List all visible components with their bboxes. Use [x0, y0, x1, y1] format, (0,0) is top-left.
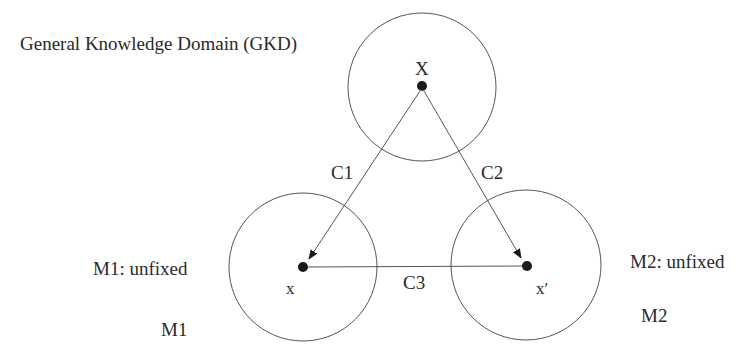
node-label-x-prime: x′ — [536, 280, 548, 297]
m2-status-label: M2: unfixed — [630, 252, 724, 271]
diagram-title: General Knowledge Domain (GKD) — [20, 34, 297, 53]
edge-c1 — [309, 91, 420, 259]
node-dot-X — [417, 81, 427, 91]
edge-label-c2: C2 — [481, 163, 503, 182]
edge-label-c3: C3 — [403, 273, 425, 292]
m1-status-label: M1: unfixed — [93, 259, 187, 278]
m1-label: M1 — [161, 320, 187, 339]
node-label-x: x — [286, 280, 295, 297]
node-dot-x — [298, 262, 308, 272]
m2-label: M2 — [641, 306, 667, 325]
edge-c3 — [303, 266, 527, 267]
edge-label-c1: C1 — [331, 163, 353, 182]
diagram-canvas — [0, 0, 749, 361]
node-label-X: X — [415, 59, 429, 78]
node-dot-x-prime — [522, 261, 532, 271]
edge-c2 — [424, 91, 521, 258]
